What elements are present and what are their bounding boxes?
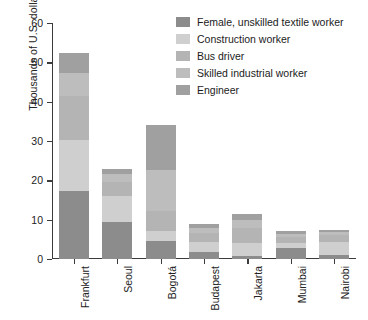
legend-swatch-female-unskilled-textile-worker — [176, 17, 190, 27]
x-tick-mark — [334, 259, 335, 264]
legend-item: Skilled industrial worker — [176, 65, 366, 81]
bar-segment — [232, 243, 262, 256]
y-tick-label: 30 — [31, 136, 43, 147]
x-axis-label-budapest: Budapest — [209, 266, 221, 310]
x-tick-mark — [161, 259, 162, 264]
bar-bogot — [146, 125, 176, 259]
bar-segment — [146, 170, 176, 211]
bar-segment — [146, 241, 176, 259]
bar-segment — [102, 196, 132, 222]
bar-segment — [189, 252, 219, 259]
bar-segment — [319, 242, 349, 255]
legend-item: Bus driver — [176, 48, 366, 64]
x-axis-label-bogot: Bogotá — [166, 266, 178, 299]
x-tick-mark — [291, 259, 292, 264]
bar-segment — [59, 53, 89, 73]
legend-item: Construction worker — [176, 31, 366, 47]
y-tick-label: 40 — [31, 96, 43, 107]
y-tick-mark — [47, 259, 52, 260]
bar-jakarta — [232, 214, 262, 259]
x-axis-labels: FrankfurtSeoulBogotáBudapestJakartaMumba… — [52, 266, 356, 320]
x-axis-label-frankfurt: Frankfurt — [79, 266, 91, 308]
y-tick-label: 0 — [37, 254, 43, 265]
bar-segment — [319, 235, 349, 242]
bar-segment — [102, 182, 132, 196]
chart-container: Thousands of U.S. dollars per year 01020… — [0, 0, 368, 320]
bar-segment — [59, 191, 89, 259]
x-axis-label-seoul: Seoul — [122, 266, 134, 293]
legend-label: Engineer — [197, 85, 239, 96]
chart-legend: Female, unskilled textile workerConstruc… — [176, 14, 366, 99]
bar-mumbai — [276, 231, 306, 259]
y-tick-label: 20 — [31, 175, 43, 186]
x-tick-mark — [247, 259, 248, 264]
bar-seoul — [102, 169, 132, 259]
bar-frankfurt — [59, 53, 89, 259]
y-tick-label: 60 — [31, 18, 43, 29]
x-tick-mark — [117, 259, 118, 264]
bar-segment — [146, 231, 176, 241]
legend-label: Bus driver — [197, 51, 244, 62]
legend-label: Construction worker — [197, 34, 290, 45]
bar-segment — [232, 228, 262, 242]
bar-nairobi — [319, 230, 349, 259]
x-tick-mark — [204, 259, 205, 264]
bar-segment — [232, 220, 262, 228]
legend-item: Engineer — [176, 82, 366, 98]
bar-budapest — [189, 224, 219, 259]
legend-label: Female, unskilled textile worker — [197, 17, 343, 28]
bar-segment — [189, 242, 219, 251]
x-axis-label-jakarta: Jakarta — [252, 266, 264, 300]
bar-segment — [102, 174, 132, 182]
y-tick-label: 10 — [31, 214, 43, 225]
bar-segment — [276, 248, 306, 259]
bar-segment — [59, 140, 89, 191]
bar-segment — [59, 96, 89, 140]
x-axis-label-nairobi: Nairobi — [339, 266, 351, 299]
y-tick-label: 50 — [31, 57, 43, 68]
legend-swatch-engineer — [176, 85, 190, 95]
legend-swatch-bus-driver — [176, 51, 190, 61]
legend-swatch-skilled-industrial-worker — [176, 68, 190, 78]
x-tick-mark — [74, 259, 75, 264]
y-axis-title-wrap: Thousands of U.S. dollars per year — [0, 0, 26, 260]
legend-item: Female, unskilled textile worker — [176, 14, 366, 30]
x-axis-label-mumbai: Mumbai — [296, 266, 308, 303]
bar-segment — [59, 73, 89, 97]
bar-segment — [146, 211, 176, 231]
bar-segment — [102, 222, 132, 259]
legend-swatch-construction-worker — [176, 34, 190, 44]
bar-segment — [189, 233, 219, 243]
legend-label: Skilled industrial worker — [197, 68, 307, 79]
bar-segment — [146, 125, 176, 170]
